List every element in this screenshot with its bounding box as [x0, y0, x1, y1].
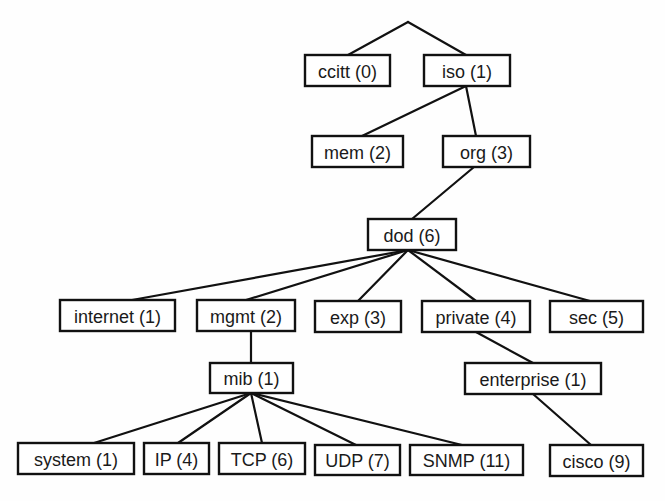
edge-mib-tcp	[251, 393, 262, 443]
tree-svg: ccitt (0)iso (1)mem (2)org (3)dod (6)int…	[0, 0, 665, 501]
node-label: sec (5)	[569, 308, 624, 328]
node-mib: mib (1)	[210, 363, 293, 393]
node-label: SNMP (11)	[423, 451, 510, 471]
node-label: mem (2)	[324, 143, 391, 163]
node-exp: exp (3)	[315, 301, 401, 332]
edge-org-dod	[412, 167, 474, 219]
node-mem: mem (2)	[312, 136, 403, 167]
node-enterprise: enterprise (1)	[465, 363, 601, 394]
edge-enterprise-cisco	[533, 394, 591, 445]
node-system: system (1)	[18, 443, 134, 474]
edge-iso-mem	[362, 86, 466, 136]
edge-root-ccitt	[348, 22, 408, 55]
node-tcp: TCP (6)	[219, 443, 305, 474]
node-iso: iso (1)	[424, 55, 510, 86]
node-label: org (3)	[460, 143, 513, 163]
node-label: dod (6)	[383, 226, 440, 246]
node-label: enterprise (1)	[479, 370, 586, 390]
node-org: org (3)	[443, 136, 530, 167]
node-ccitt: ccitt (0)	[305, 55, 390, 86]
oid-tree-diagram: ccitt (0)iso (1)mem (2)org (3)dod (6)int…	[0, 0, 665, 501]
node-sec: sec (5)	[550, 301, 643, 332]
node-label: mgmt (2)	[210, 307, 282, 327]
edge-root-iso	[408, 22, 466, 55]
node-label: TCP (6)	[231, 450, 294, 470]
edge-mib-system	[94, 393, 251, 443]
node-label: mib (1)	[223, 369, 279, 389]
edge-mib-snmp	[251, 393, 462, 445]
edge-dod-sec	[408, 250, 590, 301]
edge-mib-ip	[178, 393, 251, 443]
node-ip: IP (4)	[144, 443, 209, 474]
node-label: iso (1)	[442, 62, 492, 82]
node-label: ccitt (0)	[318, 62, 377, 82]
node-udp: UDP (7)	[315, 445, 400, 475]
node-dod: dod (6)	[368, 219, 456, 250]
node-label: system (1)	[34, 450, 118, 470]
node-mgmt: mgmt (2)	[197, 300, 295, 331]
node-private: private (4)	[422, 301, 530, 332]
node-label: UDP (7)	[325, 451, 390, 471]
edge-private-enterprise	[476, 332, 533, 363]
node-label: private (4)	[435, 308, 516, 328]
node-cisco: cisco (9)	[550, 445, 643, 476]
edge-dod-private	[408, 250, 476, 301]
node-label: cisco (9)	[562, 452, 630, 472]
node-label: internet (1)	[74, 307, 161, 327]
node-label: IP (4)	[155, 450, 199, 470]
node-internet: internet (1)	[60, 300, 175, 331]
edge-mib-udp	[251, 393, 356, 445]
edge-iso-org	[466, 86, 476, 136]
node-label: exp (3)	[330, 308, 386, 328]
node-snmp: SNMP (11)	[410, 445, 523, 475]
